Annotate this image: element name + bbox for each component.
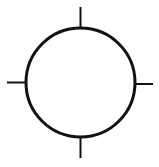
circle-crosshair-diagram xyxy=(0,0,159,167)
diagram-canvas xyxy=(0,0,159,167)
circle-shape xyxy=(26,28,135,137)
